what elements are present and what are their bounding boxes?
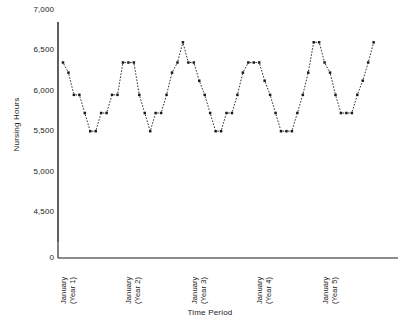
data-point — [296, 112, 299, 115]
data-connector — [271, 96, 276, 111]
data-point — [280, 130, 283, 133]
data-point — [312, 41, 315, 44]
data-connector — [173, 64, 177, 71]
data-point — [154, 112, 157, 115]
data-point — [62, 61, 65, 64]
data-connector — [330, 74, 335, 93]
data-point — [138, 94, 141, 97]
data-point — [193, 61, 196, 64]
data-point — [285, 130, 288, 133]
data-point — [111, 94, 114, 97]
data-point — [182, 41, 185, 44]
data-point — [345, 112, 348, 115]
data-connector — [369, 44, 374, 61]
data-connector — [145, 115, 150, 130]
data-point — [231, 112, 234, 115]
data-connector — [303, 74, 308, 93]
data-connector — [352, 96, 357, 111]
data-point — [247, 61, 250, 64]
data-point — [165, 94, 168, 97]
data-point — [67, 71, 70, 74]
data-point — [323, 61, 326, 64]
data-connector — [140, 96, 145, 111]
data-point — [291, 130, 294, 133]
data-point — [116, 94, 119, 97]
data-point — [209, 112, 212, 115]
data-point — [258, 61, 261, 64]
data-connector — [336, 96, 341, 111]
data-connector — [298, 96, 303, 111]
data-connector — [167, 74, 172, 93]
data-point — [356, 94, 359, 97]
data-point — [198, 79, 201, 82]
data-point — [334, 94, 337, 97]
data-point — [263, 79, 266, 82]
data-point — [302, 94, 305, 97]
data-point — [253, 61, 256, 64]
data-point — [367, 61, 370, 64]
data-connector — [292, 115, 297, 130]
data-point — [127, 61, 129, 64]
data-point — [318, 41, 321, 44]
data-connector — [107, 96, 112, 111]
data-point — [105, 112, 108, 115]
data-point — [362, 79, 365, 82]
chart-figure: Nursing Hours Time Period 7,0006,5006,00… — [0, 0, 404, 325]
data-point — [94, 130, 97, 133]
data-point — [122, 61, 125, 64]
data-point — [84, 112, 87, 115]
data-connector — [205, 96, 210, 111]
data-point — [372, 41, 375, 44]
data-connector — [260, 64, 265, 79]
data-point — [73, 94, 76, 97]
data-connector — [363, 64, 368, 79]
data-point — [351, 112, 354, 115]
data-connector — [151, 115, 156, 130]
data-point — [214, 130, 217, 133]
data-connector — [162, 96, 167, 111]
data-connector — [134, 64, 139, 93]
data-connector — [80, 96, 85, 111]
data-point — [242, 71, 245, 74]
data-point — [340, 112, 343, 115]
data-point — [203, 94, 206, 97]
data-connector — [320, 44, 325, 61]
data-point — [144, 112, 147, 115]
data-connector — [211, 115, 216, 130]
data-connector — [96, 115, 101, 130]
data-point — [133, 61, 136, 64]
data-connector — [358, 82, 362, 93]
data-point — [176, 61, 179, 64]
data-connector — [244, 64, 248, 71]
data-connector — [178, 44, 183, 61]
data-point — [187, 61, 190, 64]
data-connector — [183, 44, 188, 61]
plot-area — [0, 0, 404, 325]
data-point — [220, 130, 223, 133]
data-point — [89, 130, 92, 133]
data-point — [274, 112, 277, 115]
data-connector — [200, 82, 204, 93]
data-connector — [64, 64, 68, 71]
data-point — [160, 112, 163, 115]
data-connector — [309, 44, 314, 71]
data-point — [225, 112, 228, 115]
data-point — [171, 71, 174, 74]
data-point — [78, 94, 81, 97]
data-connector — [265, 82, 269, 93]
data-connector — [118, 64, 123, 93]
data-point — [307, 71, 310, 74]
data-connector — [232, 96, 237, 111]
data-point — [149, 130, 152, 133]
data-connector — [276, 115, 281, 130]
data-point — [100, 112, 103, 115]
data-point — [329, 71, 332, 74]
data-connector — [325, 64, 329, 71]
data-point — [269, 94, 272, 97]
data-connector — [69, 74, 74, 93]
data-connector — [222, 115, 227, 130]
data-connector — [85, 115, 90, 130]
data-connector — [194, 64, 199, 79]
data-connector — [238, 74, 243, 93]
data-point — [236, 94, 239, 97]
